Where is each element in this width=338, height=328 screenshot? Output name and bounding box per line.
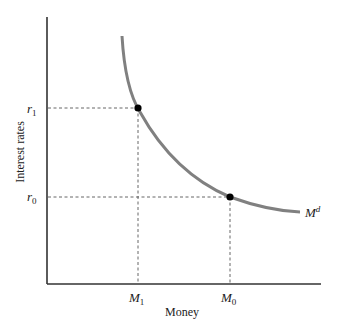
x-tick-m0: M0 <box>220 290 237 307</box>
money-demand-chart: Md r1 r0 M1 M0 Money Interest rates <box>0 0 338 328</box>
curve-label-md: Md <box>304 204 321 220</box>
money-demand-curve <box>122 36 300 212</box>
y-tick-r1: r1 <box>27 101 37 118</box>
x-tick-m1: M1 <box>128 290 144 307</box>
y-axis-title: Interest rates <box>13 121 27 183</box>
point-m0-r0 <box>226 193 233 200</box>
y-tick-r0: r0 <box>27 189 37 206</box>
x-axis-title: Money <box>165 305 199 319</box>
point-m1-r1 <box>134 104 141 111</box>
guide-lines <box>48 108 230 284</box>
